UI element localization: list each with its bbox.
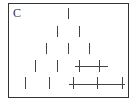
vertical-tick [57, 26, 58, 37]
vertical-tick [35, 60, 36, 72]
vertical-tick [89, 43, 90, 54]
vertical-tick [57, 60, 58, 72]
vertical-tick [49, 77, 50, 89]
vertical-tick [68, 43, 69, 54]
vertical-tick [79, 26, 80, 37]
vertical-tick [73, 77, 74, 89]
vertical-tick [97, 77, 98, 89]
figure-label: C [13, 7, 21, 19]
vertical-tick [68, 8, 69, 19]
vertical-tick [122, 77, 123, 89]
vertical-tick [25, 77, 26, 89]
vertical-tick [46, 43, 47, 54]
vertical-tick [99, 60, 100, 72]
vertical-tick [79, 60, 80, 72]
